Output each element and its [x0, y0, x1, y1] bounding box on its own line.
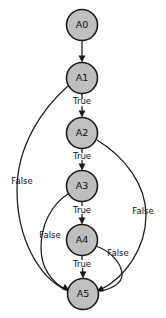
- edge-label-true: True: [72, 259, 91, 269]
- node-a3[interactable]: A3: [67, 171, 98, 202]
- node-label: A1: [76, 72, 89, 83]
- arrowhead-icon: [80, 272, 87, 279]
- diagram-canvas: A0A1A2A3A4A5 TrueTrueTrueTrueFalseFalseF…: [0, 0, 166, 318]
- edge-label-false: False: [132, 206, 153, 216]
- edge-label-true: True: [72, 96, 91, 106]
- edge-a0-to-a1: [79, 41, 86, 63]
- edge-a1-to-a5: [17, 86, 70, 292]
- arrowhead-icon: [79, 111, 86, 118]
- edge-label-false: False: [11, 176, 32, 186]
- node-label: A4: [76, 234, 89, 245]
- node-label: A3: [76, 180, 89, 191]
- node-a2[interactable]: A2: [67, 118, 98, 149]
- node-a4[interactable]: A4: [67, 225, 98, 256]
- node-a1[interactable]: A1: [67, 63, 98, 94]
- node-label: A5: [77, 288, 90, 299]
- control-flow-graph: A0A1A2A3A4A5 TrueTrueTrueTrueFalseFalseF…: [0, 0, 166, 318]
- arrowhead-icon: [79, 164, 86, 171]
- arrowhead-icon: [79, 218, 86, 225]
- edge-line: [41, 194, 68, 290]
- arrowhead-icon: [79, 56, 86, 63]
- edge-a3-to-a5: [41, 194, 70, 291]
- node-a0[interactable]: A0: [67, 10, 98, 41]
- edge-label-false: False: [107, 248, 128, 258]
- edge-label-true: True: [72, 205, 91, 215]
- node-label: A2: [76, 127, 89, 138]
- edge-label-false: False: [39, 230, 60, 240]
- node-a5[interactable]: A5: [68, 279, 99, 310]
- edge-label-true: True: [72, 151, 91, 161]
- node-label: A0: [76, 19, 89, 30]
